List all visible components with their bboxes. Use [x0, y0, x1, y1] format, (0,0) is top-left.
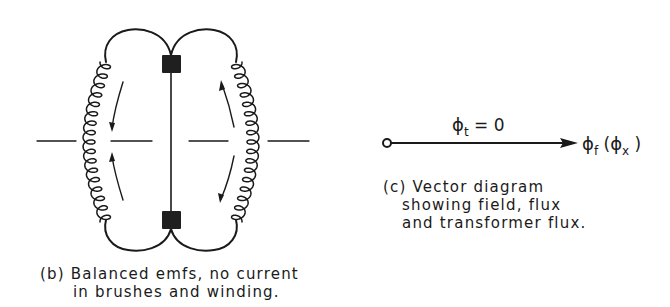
vector-origin: [383, 139, 391, 147]
right-coil: [232, 62, 259, 222]
right-lower-arrow-icon: [221, 156, 234, 199]
caption-b-line1: (b) Balanced emfs, no current: [40, 265, 299, 283]
caption-c-line1: (c) Vector diagram: [383, 178, 587, 196]
top-brush: [162, 55, 181, 73]
phi-t-label: ϕt = 0: [452, 114, 504, 139]
left-lower-arrow-icon: [112, 156, 123, 200]
right-upper-arrow-icon: [222, 84, 234, 127]
phi-f-label: ϕf (ϕx ): [582, 133, 641, 158]
caption-c-line3: and transformer flux.: [383, 214, 587, 232]
left-upper-arrow-icon: [112, 82, 123, 128]
caption-c: (c) Vector diagram showing field, flux a…: [383, 178, 587, 232]
left-coil: [83, 62, 110, 222]
bottom-brush: [162, 211, 181, 229]
left-lower-arrowhead: [109, 152, 115, 162]
caption-b-line2: in brushes and winding.: [40, 283, 299, 301]
armature-diagram: ϕt = 0 ϕf (ϕx ): [0, 0, 670, 307]
left-upper-arrowhead: [109, 122, 115, 132]
left-loop-bottom: [105, 220, 171, 251]
left-loop-top: [105, 29, 171, 62]
caption-c-line2: showing field, flux: [383, 196, 587, 214]
caption-b: (b) Balanced emfs, no current in brushes…: [40, 265, 299, 301]
